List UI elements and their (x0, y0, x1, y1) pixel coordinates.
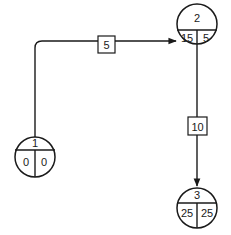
node-2-early-start: 15 (181, 32, 193, 44)
edge-1-2-duration: 5 (103, 39, 109, 51)
edge-2-3-duration: 10 (191, 121, 203, 133)
node-1: 1 0 0 (15, 137, 55, 177)
edge-1-to-2: 5 (35, 36, 176, 137)
network-diagram: 5 10 1 0 0 2 15 5 3 25 25 (0, 0, 231, 235)
edge-1-2-line (35, 41, 176, 137)
node-3-late-start: 25 (201, 207, 213, 219)
node-2: 2 15 5 (177, 4, 217, 44)
node-3-early-start: 25 (181, 207, 193, 219)
edge-2-to-3: 10 (188, 44, 207, 186)
node-1-id: 1 (32, 137, 38, 149)
node-3-id: 3 (194, 189, 200, 201)
node-1-early-start: 0 (23, 156, 29, 168)
node-3: 3 25 25 (177, 188, 217, 228)
node-1-late-start: 0 (41, 156, 47, 168)
node-2-id: 2 (194, 12, 200, 24)
node-2-late-start: 5 (203, 32, 209, 44)
